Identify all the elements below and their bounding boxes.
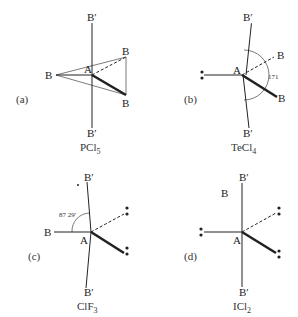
atom-b-upper-right-b: B	[277, 49, 284, 61]
atom-b-prime-bottom-d: B′	[239, 286, 249, 298]
atom-b-left-a: B	[45, 69, 52, 81]
atom-b-prime-top-a: B′	[87, 11, 97, 23]
atom-b-lower-right-a: B	[122, 97, 129, 109]
panel-tag-d: (d)	[184, 250, 197, 263]
atom-b-left-c: B	[44, 226, 51, 238]
atom-b-prime-top-b: B′	[243, 11, 253, 23]
atom-a-center-d: A	[233, 234, 241, 246]
formula-c: ClF3	[77, 300, 98, 315]
atom-b-label-d: B	[221, 187, 228, 199]
formula-a: PCl5	[80, 141, 101, 156]
panel-c	[54, 182, 124, 288]
panel-tag-b: (b)	[184, 93, 197, 106]
atom-b-prime-top-d: B′	[239, 171, 249, 183]
atom-b-prime-bottom-c: B′	[84, 286, 94, 298]
formula-d: ICl2	[233, 300, 251, 315]
lone-pair-b	[200, 70, 203, 79]
panel-a	[56, 23, 126, 128]
atom-b-prime-top-c: B′	[84, 171, 94, 183]
atom-a-center-c: A	[80, 234, 88, 246]
atom-b-upper-right-a: B	[122, 45, 129, 57]
atom-b-prime-bottom-a: B′	[87, 127, 97, 139]
panel-tag-c: (c)	[28, 250, 41, 263]
formula-b: TeCl4	[231, 141, 256, 156]
atom-a-center-b: A	[233, 64, 241, 76]
atom-a-center-a: A	[84, 63, 92, 75]
atom-b-lower-right-b: B	[278, 92, 285, 104]
panel-tag-a: (a)	[16, 93, 29, 106]
molecular-geometry-diagram: B′ B′ B B B A (a) PCl5 B′ B′ B B A 171 (…	[0, 0, 298, 317]
atom-b-prime-bottom-b: B′	[243, 127, 253, 139]
angle-label-b: 171	[268, 73, 279, 81]
angle-label-c: 87 29′	[59, 211, 77, 219]
